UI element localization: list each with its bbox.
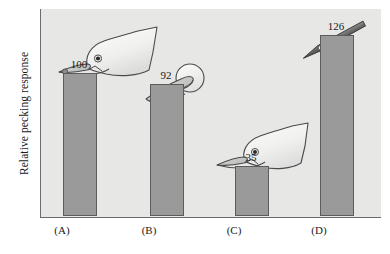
bar-a	[63, 73, 97, 216]
y-axis-label: Relative pecking response	[12, 9, 36, 218]
figure-container: Relative pecking response	[0, 0, 390, 254]
bar-value-a: 100	[43, 58, 115, 70]
bar-d	[320, 35, 354, 216]
bar-value-d: 126	[300, 20, 372, 32]
category-label-b: (B)	[113, 224, 185, 236]
bar-value-b: 92	[130, 69, 202, 81]
plot-area: 100 92 35 126	[40, 9, 381, 218]
bar-c	[235, 166, 269, 216]
category-label-a: (A)	[26, 224, 98, 236]
category-label-c: (C)	[198, 224, 270, 236]
bar-b	[150, 84, 184, 216]
category-label-d: (D)	[283, 224, 355, 236]
bar-value-c: 35	[215, 151, 287, 163]
